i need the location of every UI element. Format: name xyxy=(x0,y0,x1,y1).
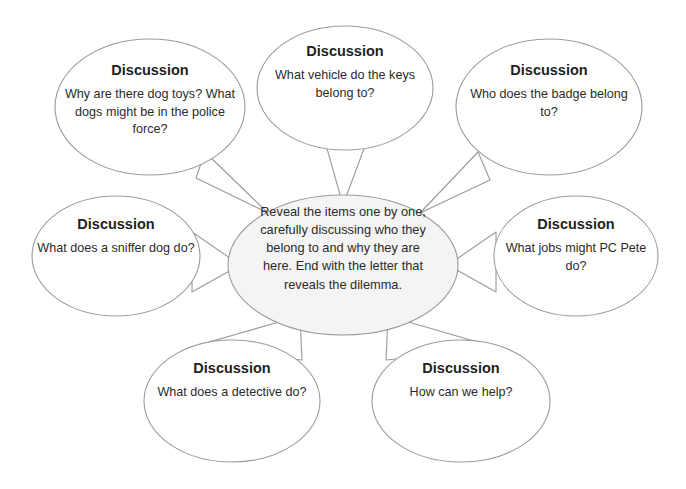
bubble-middle-right[interactable] xyxy=(494,196,658,316)
diagram-canvas: Discussion Why are there dog toys? What … xyxy=(0,0,686,489)
bubble-top-center[interactable] xyxy=(257,26,433,150)
bubble-middle-left[interactable] xyxy=(32,196,200,316)
bubble-bottom-left[interactable] xyxy=(144,340,320,462)
tail-top-right xyxy=(420,152,490,213)
bubble-bottom-right[interactable] xyxy=(372,340,550,462)
bubble-top-right[interactable] xyxy=(456,39,642,175)
bubble-map-svg xyxy=(0,0,686,489)
bubble-center[interactable] xyxy=(228,195,458,335)
bubble-top-left[interactable] xyxy=(55,39,245,175)
